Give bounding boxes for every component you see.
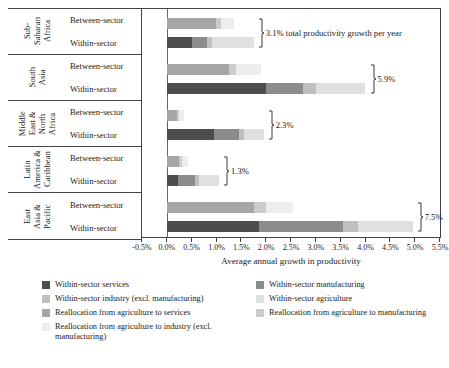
chart-legend: Within-sector servicesWithin-sector indu… — [0, 280, 449, 364]
bar-within-2 — [167, 83, 366, 94]
x-tick — [439, 238, 440, 242]
sector-label-within: Within-sector — [66, 170, 141, 193]
bar-segment — [254, 202, 266, 213]
legend-swatch-icon — [42, 309, 50, 317]
region-label: South Asia — [8, 55, 66, 100]
bar-segment — [212, 37, 254, 48]
bar-segment — [343, 221, 358, 232]
legend-swatch-icon — [42, 323, 50, 331]
legend-item-right-3: Reallocation from agriculture to manufac… — [256, 308, 446, 318]
total-growth-label: 1.3% — [231, 166, 249, 176]
bar-segment — [167, 83, 266, 94]
bar-segment — [167, 64, 229, 75]
x-tick-label: 2.0% — [258, 243, 275, 252]
total-growth-annotation-5: 7.5% — [417, 202, 443, 232]
region-label: Latin America & Caribbean — [8, 147, 66, 192]
bar-segment — [167, 175, 178, 186]
legend-item-right-1: Within-sector manufacturing — [256, 280, 446, 290]
brace-icon — [370, 64, 377, 94]
region-label: East Asia & Pacific — [8, 193, 66, 239]
region-label-text: South Asia — [27, 67, 47, 87]
bar-between-4 — [167, 156, 188, 167]
legend-item-left-1: Within-sector services — [42, 280, 252, 290]
legend-swatch-icon — [256, 281, 264, 289]
bar-segment — [316, 83, 366, 94]
sector-label-within: Within-sector — [66, 78, 141, 101]
region-row-5: East Asia & PacificBetween-sectorWithin-… — [8, 193, 141, 239]
x-tick — [191, 238, 192, 242]
x-tick — [315, 238, 316, 242]
sector-label-between: Between-sector — [66, 9, 141, 32]
bar-segment — [259, 221, 343, 232]
x-tick — [216, 238, 217, 242]
bar-segment — [167, 221, 259, 232]
x-tick — [265, 238, 266, 242]
bar-segment — [167, 110, 177, 121]
legend-column-right: Within-sector manufacturingWithin-sector… — [256, 280, 446, 322]
x-tick-label: 1.0% — [208, 243, 225, 252]
brace-icon — [223, 156, 230, 186]
legend-item-left-2: Within-sector industry (excl. manufactur… — [42, 294, 252, 304]
bar-segment — [192, 37, 207, 48]
sector-label-within: Within-sector — [66, 216, 141, 239]
bar-within-3 — [167, 129, 264, 140]
x-tick — [166, 238, 167, 242]
x-tick — [414, 238, 415, 242]
bar-between-2 — [167, 64, 261, 75]
bar-segment — [214, 129, 239, 140]
x-tick-label: 5.0% — [407, 243, 424, 252]
region-label-text: Middle East & North Africa — [17, 111, 57, 136]
legend-item-left-3: Reallocation from agriculture to service… — [42, 308, 252, 318]
bar-within-5 — [167, 221, 413, 232]
x-tick-label: 3.5% — [332, 243, 349, 252]
region-row-4: Latin America & CaribbeanBetween-sectorW… — [8, 147, 141, 193]
bar-segment — [179, 110, 184, 121]
bar-within-1 — [167, 37, 254, 48]
bar-segment — [358, 221, 413, 232]
bar-segment — [229, 64, 236, 75]
bar-segment — [236, 64, 261, 75]
total-growth-annotation-3: 2.3% — [268, 110, 294, 140]
region-label-text: East Asia & Pacific — [22, 204, 52, 229]
region-row-2: South AsiaBetween-sectorWithin-sector — [8, 55, 141, 101]
sector-label-between: Between-sector — [66, 193, 141, 216]
x-tick-label: 1.5% — [233, 243, 250, 252]
bar-within-4 — [167, 175, 219, 186]
x-tick-label: 0.5% — [183, 243, 200, 252]
region-label-text: Latin America & Caribbean — [22, 150, 52, 189]
brace-icon — [258, 18, 265, 48]
legend-item-right-2: Within-sector agriculture — [256, 294, 446, 304]
x-tick — [340, 238, 341, 242]
legend-label: Within-sector manufacturing — [269, 280, 446, 290]
x-tick-label: 4.0% — [357, 243, 374, 252]
region-label: Sub- Saharan Africa — [8, 9, 66, 54]
bar-segment — [266, 202, 293, 213]
bar-segment — [221, 18, 233, 29]
region-label-text: Sub- Saharan Africa — [22, 17, 52, 45]
sector-label-between: Between-sector — [66, 147, 141, 170]
x-tick-label: 5.5% — [432, 243, 449, 252]
x-tick-label: 4.5% — [382, 243, 399, 252]
legend-item-left-4: Reallocation from agriculture to industr… — [42, 322, 252, 342]
legend-label: Reallocation from agriculture to manufac… — [269, 308, 446, 318]
x-tick-label: 0.0% — [158, 243, 175, 252]
bar-segment — [199, 175, 219, 186]
region-row-1: Sub- Saharan AfricaBetween-sectorWithin-… — [8, 9, 141, 55]
total-growth-annotation-2: 5.9% — [370, 64, 396, 94]
bar-segment — [167, 129, 214, 140]
legend-column-left: Within-sector servicesWithin-sector indu… — [42, 280, 252, 346]
bar-between-5 — [167, 202, 294, 213]
bar-segment — [266, 83, 303, 94]
x-tick-label: 3.0% — [307, 243, 324, 252]
total-growth-label: 7.5% — [425, 212, 443, 222]
legend-label: Reallocation from agriculture to industr… — [55, 322, 252, 342]
total-growth-annotation-4: 1.3% — [223, 156, 249, 186]
x-axis-tick-labels: -0.5%0.0%0.5%1.0%1.5%2.0%2.5%3.0%3.5%4.0… — [0, 243, 449, 255]
x-axis-title: Average annual growth in productivity — [141, 256, 441, 266]
legend-swatch-icon — [256, 295, 264, 303]
legend-swatch-icon — [256, 309, 264, 317]
bar-segment — [167, 37, 192, 48]
brace-icon — [268, 110, 275, 140]
bar-segment — [167, 202, 254, 213]
region-label-table: Sub- Saharan AfricaBetween-sectorWithin-… — [8, 8, 141, 240]
